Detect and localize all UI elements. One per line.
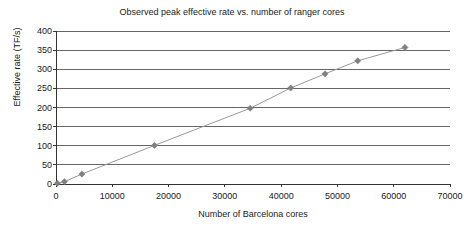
- data-point-marker: [355, 58, 361, 64]
- data-point-marker: [288, 85, 294, 91]
- data-point-marker: [402, 44, 408, 50]
- chart-container: Observed peak effective rate vs. number …: [0, 0, 464, 233]
- y-tick-label: 0: [16, 179, 52, 189]
- data-point-marker: [79, 171, 85, 177]
- y-tick-label: 100: [16, 141, 52, 151]
- x-tick-label: 70000: [420, 191, 464, 201]
- x-axis-label: Number of Barcelona cores: [56, 209, 450, 220]
- x-tick-label: 40000: [251, 191, 311, 201]
- y-tick-label: 50: [16, 160, 52, 170]
- x-tick-label: 60000: [364, 191, 424, 201]
- x-tick-label: 10000: [82, 191, 142, 201]
- x-tick-label: 0: [26, 191, 86, 201]
- series-line: [57, 47, 405, 183]
- x-tick-label: 30000: [195, 191, 255, 201]
- x-tick-label: 50000: [307, 191, 367, 201]
- data-point-marker: [54, 180, 60, 186]
- data-point-marker: [151, 142, 157, 148]
- x-tick-label: 20000: [139, 191, 199, 201]
- y-tick-label: 150: [16, 122, 52, 132]
- y-axis-label: Effective rate (TF/s): [12, 12, 22, 122]
- data-point-marker: [322, 71, 328, 77]
- data-point-marker: [247, 105, 253, 111]
